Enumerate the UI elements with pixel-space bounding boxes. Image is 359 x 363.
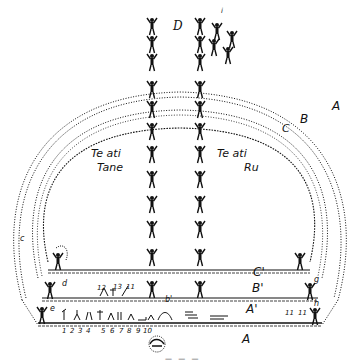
- label-c-small: c: [20, 235, 24, 243]
- platform-b-prime: [42, 298, 318, 301]
- glyph-row: [62, 309, 228, 320]
- label-11b: 11: [298, 310, 307, 317]
- label-n6: 6: [110, 328, 114, 335]
- label-11: 11: [126, 284, 135, 291]
- right-column-figures: [195, 18, 205, 298]
- label-g: g: [314, 276, 319, 284]
- label-arc-b: B: [300, 113, 308, 125]
- label-n4: 4: [86, 328, 90, 335]
- label-a-prime: A': [246, 303, 258, 315]
- figure-caption: — — —: [165, 355, 200, 363]
- label-te-ati-ru-2: Ru: [244, 162, 259, 173]
- bottom-emblem: [149, 336, 165, 352]
- label-d: D: [173, 20, 183, 32]
- label-11a: 11: [285, 310, 294, 317]
- label-ground-a: A: [242, 333, 250, 345]
- label-n9: 9: [136, 328, 140, 335]
- label-e-small: e: [50, 305, 55, 313]
- label-n1: 1: [62, 328, 66, 335]
- label-13: 13: [113, 284, 122, 291]
- left-side-figures: [37, 253, 63, 324]
- label-d-small: d: [62, 280, 67, 288]
- label-arc-a: A: [332, 100, 340, 112]
- label-n2: 2: [70, 328, 74, 335]
- platform-c-prime: [48, 270, 310, 273]
- label-b-prime: B': [252, 282, 264, 294]
- top-right-figures: [209, 23, 237, 64]
- arc-a: [14, 92, 347, 300]
- cosmology-diagram: D i A B C Te ati Tane Te ati Ru C' B' A'…: [0, 0, 359, 363]
- label-te-ati-tane-1: Te ati: [91, 148, 121, 159]
- label-n7: 7: [119, 328, 123, 335]
- label-h: h: [314, 300, 319, 308]
- label-n8: 8: [127, 328, 131, 335]
- label-12: 12: [97, 285, 106, 292]
- label-arc-c: C: [282, 123, 290, 134]
- label-b-prime-small: b': [165, 296, 172, 304]
- label-c-prime: C': [253, 266, 265, 278]
- arc-b: [33, 110, 328, 278]
- label-te-ati-ru-1: Te ati: [217, 148, 247, 159]
- platform-a-ground: [38, 323, 322, 326]
- label-te-ati-tane-2: Tane: [97, 162, 123, 173]
- left-column-figures: [147, 18, 157, 298]
- arc-c: [43, 128, 314, 262]
- label-i: i: [221, 8, 223, 15]
- label-n10: 10: [143, 328, 152, 335]
- label-n3: 3: [78, 328, 82, 335]
- label-n5: 5: [101, 328, 105, 335]
